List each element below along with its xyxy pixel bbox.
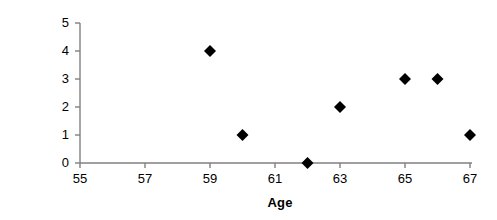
plot-area bbox=[0, 0, 497, 220]
y-tick-label: 5 bbox=[55, 16, 69, 30]
data-point-marker bbox=[237, 129, 249, 141]
data-point-marker bbox=[334, 101, 346, 113]
y-tick-label: 3 bbox=[55, 72, 69, 86]
y-tick-label: 0 bbox=[55, 156, 69, 170]
y-tick-label: 4 bbox=[55, 44, 69, 58]
y-tick-label: 1 bbox=[55, 128, 69, 142]
x-tick-label: 55 bbox=[65, 172, 95, 186]
data-point-marker bbox=[464, 129, 476, 141]
data-point-marker bbox=[302, 157, 314, 169]
x-tick-label: 61 bbox=[260, 172, 290, 186]
x-tick-label: 59 bbox=[195, 172, 225, 186]
x-tick-label: 63 bbox=[325, 172, 355, 186]
x-axis-title: Age bbox=[230, 195, 330, 210]
scatter-chart: Number of Accidents Age 0123455557596163… bbox=[0, 0, 497, 220]
data-point-marker bbox=[432, 73, 444, 85]
x-tick-label: 57 bbox=[130, 172, 160, 186]
data-point-marker bbox=[204, 45, 216, 57]
x-tick-label: 65 bbox=[390, 172, 420, 186]
x-tick-label: 67 bbox=[455, 172, 485, 186]
y-tick-label: 2 bbox=[55, 100, 69, 114]
data-point-marker bbox=[399, 73, 411, 85]
